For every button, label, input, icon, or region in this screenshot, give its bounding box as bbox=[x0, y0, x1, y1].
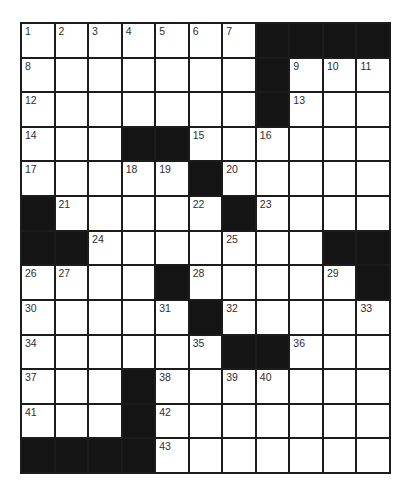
crossword-cell[interactable] bbox=[89, 93, 121, 126]
crossword-cell[interactable] bbox=[290, 301, 322, 334]
crossword-cell[interactable]: 12 bbox=[22, 93, 54, 126]
crossword-cell[interactable]: 3 bbox=[89, 24, 121, 57]
crossword-cell[interactable]: 28 bbox=[190, 266, 222, 299]
crossword-cell[interactable] bbox=[324, 439, 356, 472]
crossword-cell[interactable]: 38 bbox=[156, 370, 188, 403]
crossword-cell[interactable] bbox=[156, 59, 188, 92]
crossword-cell[interactable] bbox=[257, 162, 289, 195]
crossword-cell[interactable] bbox=[290, 128, 322, 161]
crossword-cell[interactable] bbox=[156, 336, 188, 369]
crossword-cell[interactable] bbox=[223, 266, 255, 299]
crossword-cell[interactable]: 7 bbox=[223, 24, 255, 57]
crossword-cell[interactable] bbox=[190, 370, 222, 403]
crossword-cell[interactable]: 18 bbox=[123, 162, 155, 195]
crossword-cell[interactable]: 35 bbox=[190, 336, 222, 369]
crossword-cell[interactable] bbox=[190, 405, 222, 438]
crossword-cell[interactable] bbox=[357, 439, 389, 472]
crossword-cell[interactable]: 21 bbox=[56, 197, 88, 230]
crossword-cell[interactable]: 22 bbox=[190, 197, 222, 230]
crossword-cell[interactable] bbox=[123, 59, 155, 92]
crossword-cell[interactable]: 40 bbox=[257, 370, 289, 403]
crossword-cell[interactable] bbox=[56, 405, 88, 438]
crossword-cell[interactable] bbox=[290, 232, 322, 265]
crossword-cell[interactable]: 29 bbox=[324, 266, 356, 299]
crossword-cell[interactable] bbox=[123, 232, 155, 265]
crossword-cell[interactable] bbox=[324, 162, 356, 195]
crossword-cell[interactable]: 10 bbox=[324, 59, 356, 92]
crossword-cell[interactable] bbox=[56, 162, 88, 195]
crossword-cell[interactable] bbox=[56, 370, 88, 403]
crossword-cell[interactable] bbox=[324, 370, 356, 403]
crossword-cell[interactable] bbox=[223, 405, 255, 438]
crossword-cell[interactable] bbox=[190, 232, 222, 265]
crossword-cell[interactable] bbox=[290, 162, 322, 195]
crossword-cell[interactable] bbox=[89, 162, 121, 195]
crossword-cell[interactable]: 39 bbox=[223, 370, 255, 403]
crossword-cell[interactable]: 15 bbox=[190, 128, 222, 161]
crossword-cell[interactable] bbox=[257, 266, 289, 299]
crossword-cell[interactable] bbox=[357, 162, 389, 195]
crossword-cell[interactable]: 9 bbox=[290, 59, 322, 92]
crossword-cell[interactable] bbox=[257, 301, 289, 334]
crossword-cell[interactable]: 36 bbox=[290, 336, 322, 369]
crossword-cell[interactable] bbox=[56, 59, 88, 92]
crossword-cell[interactable] bbox=[324, 336, 356, 369]
crossword-cell[interactable] bbox=[89, 336, 121, 369]
crossword-cell[interactable]: 26 bbox=[22, 266, 54, 299]
crossword-cell[interactable] bbox=[56, 336, 88, 369]
crossword-cell[interactable]: 17 bbox=[22, 162, 54, 195]
crossword-cell[interactable] bbox=[56, 128, 88, 161]
crossword-cell[interactable] bbox=[190, 93, 222, 126]
crossword-cell[interactable]: 34 bbox=[22, 336, 54, 369]
crossword-cell[interactable] bbox=[123, 197, 155, 230]
crossword-cell[interactable] bbox=[357, 128, 389, 161]
crossword-cell[interactable] bbox=[324, 197, 356, 230]
crossword-cell[interactable] bbox=[156, 232, 188, 265]
crossword-cell[interactable]: 42 bbox=[156, 405, 188, 438]
crossword-cell[interactable] bbox=[357, 336, 389, 369]
crossword-cell[interactable] bbox=[357, 93, 389, 126]
crossword-cell[interactable] bbox=[290, 197, 322, 230]
crossword-cell[interactable]: 8 bbox=[22, 59, 54, 92]
crossword-cell[interactable] bbox=[123, 93, 155, 126]
crossword-cell[interactable]: 1 bbox=[22, 24, 54, 57]
crossword-cell[interactable]: 4 bbox=[123, 24, 155, 57]
crossword-cell[interactable] bbox=[223, 439, 255, 472]
crossword-cell[interactable] bbox=[223, 93, 255, 126]
crossword-cell[interactable] bbox=[123, 336, 155, 369]
crossword-cell[interactable] bbox=[257, 405, 289, 438]
crossword-cell[interactable]: 43 bbox=[156, 439, 188, 472]
crossword-cell[interactable] bbox=[290, 405, 322, 438]
crossword-cell[interactable] bbox=[156, 197, 188, 230]
crossword-cell[interactable]: 2 bbox=[56, 24, 88, 57]
crossword-cell[interactable]: 31 bbox=[156, 301, 188, 334]
crossword-cell[interactable]: 23 bbox=[257, 197, 289, 230]
crossword-cell[interactable] bbox=[290, 266, 322, 299]
crossword-cell[interactable] bbox=[324, 301, 356, 334]
crossword-cell[interactable] bbox=[223, 59, 255, 92]
crossword-cell[interactable] bbox=[89, 128, 121, 161]
crossword-cell[interactable] bbox=[324, 93, 356, 126]
crossword-cell[interactable]: 20 bbox=[223, 162, 255, 195]
crossword-cell[interactable] bbox=[223, 128, 255, 161]
crossword-cell[interactable]: 5 bbox=[156, 24, 188, 57]
crossword-cell[interactable]: 14 bbox=[22, 128, 54, 161]
crossword-cell[interactable]: 6 bbox=[190, 24, 222, 57]
crossword-cell[interactable]: 24 bbox=[89, 232, 121, 265]
crossword-cell[interactable]: 33 bbox=[357, 301, 389, 334]
crossword-cell[interactable]: 16 bbox=[257, 128, 289, 161]
crossword-cell[interactable] bbox=[89, 266, 121, 299]
crossword-cell[interactable] bbox=[89, 405, 121, 438]
crossword-cell[interactable] bbox=[56, 93, 88, 126]
crossword-cell[interactable]: 32 bbox=[223, 301, 255, 334]
crossword-cell[interactable] bbox=[89, 59, 121, 92]
crossword-cell[interactable] bbox=[257, 232, 289, 265]
crossword-cell[interactable] bbox=[257, 439, 289, 472]
crossword-cell[interactable]: 19 bbox=[156, 162, 188, 195]
crossword-cell[interactable] bbox=[357, 370, 389, 403]
crossword-cell[interactable] bbox=[89, 370, 121, 403]
crossword-cell[interactable]: 27 bbox=[56, 266, 88, 299]
crossword-cell[interactable] bbox=[56, 301, 88, 334]
crossword-cell[interactable] bbox=[357, 197, 389, 230]
crossword-cell[interactable] bbox=[290, 439, 322, 472]
